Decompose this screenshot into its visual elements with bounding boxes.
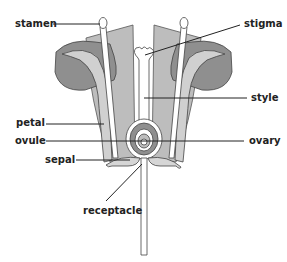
flower-diagram: stamen stigma style petal ovule ovary se… [0, 0, 287, 262]
label-stamen: stamen [15, 18, 57, 30]
label-stigma: stigma [244, 18, 283, 30]
label-receptacle: receptacle [83, 205, 142, 217]
pistil [134, 47, 153, 122]
label-petal: petal [16, 117, 45, 129]
label-style: style [251, 92, 278, 104]
label-ovary: ovary [249, 135, 281, 147]
label-ovule: ovule [15, 135, 46, 147]
label-sepal: sepal [45, 154, 75, 166]
ovary [126, 119, 162, 159]
flower-illustration [0, 0, 287, 262]
